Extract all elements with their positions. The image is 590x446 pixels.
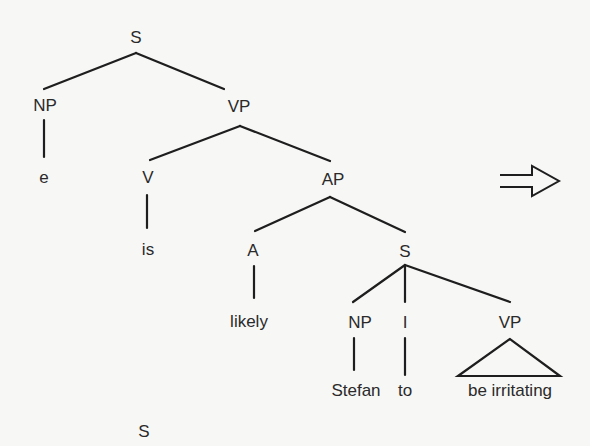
node-be-irritating: be irritating [468,382,552,399]
node-vp-embedded: VP [499,314,522,331]
node-stefan: Stefan [331,382,380,399]
node-s-root: S [130,29,141,46]
branch-ap-s [330,197,405,232]
node-likely: likely [230,313,268,330]
node-s-next-tree: S [138,423,149,440]
tree-branches [0,0,590,446]
node-np-subject: NP [33,97,57,114]
syntax-tree-diagram: S NP e VP V is AP A likely S NP Stefan I… [0,0,590,446]
node-ap: AP [322,171,345,188]
node-np-embedded: NP [348,314,372,331]
node-v: V [142,169,153,186]
branch-s-vp [136,53,224,89]
branch-s-vp2 [405,265,510,302]
node-i: I [403,314,408,331]
node-vp-main: VP [228,98,251,115]
node-s-embedded: S [399,243,410,260]
node-is: is [142,241,154,258]
node-a: A [247,242,258,259]
branch-s-np2 [353,265,405,302]
branch-vp-v [150,126,240,160]
vp-triangle [458,339,560,376]
branch-ap-a [255,197,330,231]
branch-s-np [44,53,136,89]
node-to: to [398,382,412,399]
branch-vp-ap [240,126,330,161]
double-right-arrow-icon [500,166,559,196]
node-empty-e: e [39,169,48,186]
